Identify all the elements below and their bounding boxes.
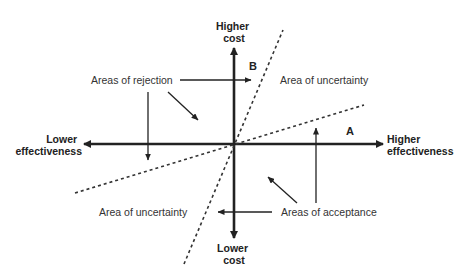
uncertainty-lower-label: Area of uncertainty	[99, 206, 188, 218]
x-axis-left-label-line2: effectiveness	[15, 145, 82, 157]
x-axis-right-label-line2: effectiveness	[387, 145, 454, 157]
rejection-arrow-diagonal	[168, 92, 198, 120]
y-axis-bottom-label-line1: Lower	[217, 242, 248, 254]
x-axis-right-label: Higher effectiveness	[387, 133, 454, 157]
x-axis-left-label-line1: Lower	[46, 133, 77, 145]
threshold-label-a: A	[346, 125, 354, 137]
acceptance-arrow-diagonal	[268, 177, 297, 203]
y-axis-top-label-line2: cost	[223, 32, 245, 44]
y-axis-bottom-label: Lower cost	[217, 242, 251, 266]
y-axis-bottom-label-line2: cost	[223, 254, 245, 266]
uncertainty-upper-label: Area of uncertainty	[280, 74, 369, 86]
x-axis-left-label: Lower effectiveness	[15, 133, 82, 157]
acceptance-label: Areas of acceptance	[281, 206, 377, 218]
x-axis-right-label-line1: Higher	[387, 133, 420, 145]
rejection-label: Areas of rejection	[91, 74, 173, 86]
cost-effectiveness-plane: Higher cost Lower cost Lower effectivene…	[0, 0, 464, 279]
threshold-label-b: B	[249, 60, 257, 72]
y-axis-top-label-line1: Higher	[216, 20, 249, 32]
y-axis-top-label: Higher cost	[216, 20, 252, 44]
